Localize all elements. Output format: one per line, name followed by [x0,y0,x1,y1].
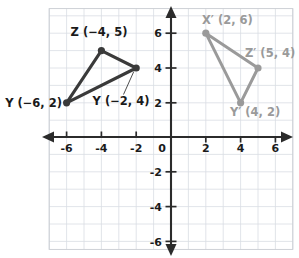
x-tick-label-neg2: -2 [130,142,142,155]
y-tick-label-neg4: -4 [150,201,163,214]
x-tick-label-pos2: 2 [202,142,210,155]
image-vertex-z-prime [254,64,261,71]
point-label-z-prime: Z′ (5, 4) [245,46,295,60]
x-tick-label-pos4: 4 [237,142,245,155]
preimage-vertex-x [133,64,140,71]
preimage-vertex-y [63,99,70,106]
y-tick-label-pos2: 2 [154,97,162,110]
point-label-y: Y (−6, 2) [4,96,62,110]
y-tick-label-pos6: 6 [154,27,162,40]
y-tick-label-neg2: -2 [150,166,162,179]
origin-label: 0 [158,142,166,155]
coordinate-plane-svg: -6 -4 -2 2 4 6 6 4 2 -2 -4 -6 0 [0,0,299,258]
coordinate-plane-figure: -6 -4 -2 2 4 6 6 4 2 -2 -4 -6 0 [0,0,299,258]
preimage-vertex-z [98,47,105,54]
image-vertex-x-prime [202,30,209,37]
point-label-y-prime: Y′ (4, 2) [229,105,280,119]
point-label-x-prime: X′ (2, 6) [202,13,253,27]
y-tick-label-pos4: 4 [154,62,162,75]
point-label-z: Z (−4, 5) [71,25,128,39]
point-label-y-vertex: Y (−2, 4) [92,94,150,108]
x-tick-label-neg6: -6 [60,142,73,155]
figure-background [0,0,299,258]
x-tick-label-pos6: 6 [272,142,280,155]
y-tick-label-neg6: -6 [150,236,163,249]
x-tick-label-neg4: -4 [95,142,108,155]
